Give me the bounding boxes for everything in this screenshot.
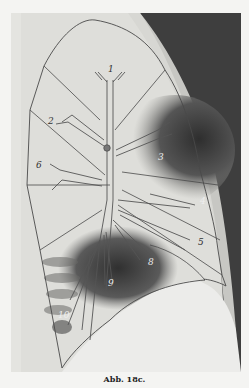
- segment-label-6: 6: [36, 160, 42, 170]
- figure-caption: Abb. 18c.: [0, 374, 249, 384]
- segment-label-8: 8: [148, 257, 154, 267]
- segment-label-9: 9: [108, 278, 114, 288]
- segment-label-5: 5: [198, 237, 204, 247]
- xray-figure: 1 2 3 4 5 6 8 9 10: [11, 13, 241, 372]
- segment-label-1: 1: [108, 64, 114, 74]
- segment-label-3: 3: [158, 152, 164, 162]
- segment-label-2: 2: [47, 116, 54, 126]
- upper-lobe-shadow: [115, 95, 235, 205]
- segment-label-4: 4: [199, 196, 206, 206]
- segment-label-10: 10: [58, 310, 70, 320]
